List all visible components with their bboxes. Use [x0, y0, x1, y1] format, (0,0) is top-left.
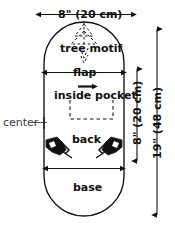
back-label: back [72, 134, 101, 145]
flap-label: flap [73, 67, 96, 78]
diagram-canvas [0, 0, 175, 230]
base-label: base [73, 182, 102, 193]
inner-height-label: 8" (20 cm) [132, 81, 143, 145]
inside-pocket-label: inside pocket [54, 90, 137, 101]
pattern-diagram-figure: 8" (20 cm) tree motif flap inside pocket… [0, 0, 175, 230]
tree-motif-label: tree motif [60, 43, 122, 54]
left-bag-clip-icon [46, 137, 72, 158]
total-height-label: 19" (48 cm) [152, 87, 163, 159]
dashed-pocket-rectangle [70, 100, 113, 119]
top-width-label: 8" (20 cm) [58, 9, 122, 20]
center-label: center [3, 117, 38, 128]
